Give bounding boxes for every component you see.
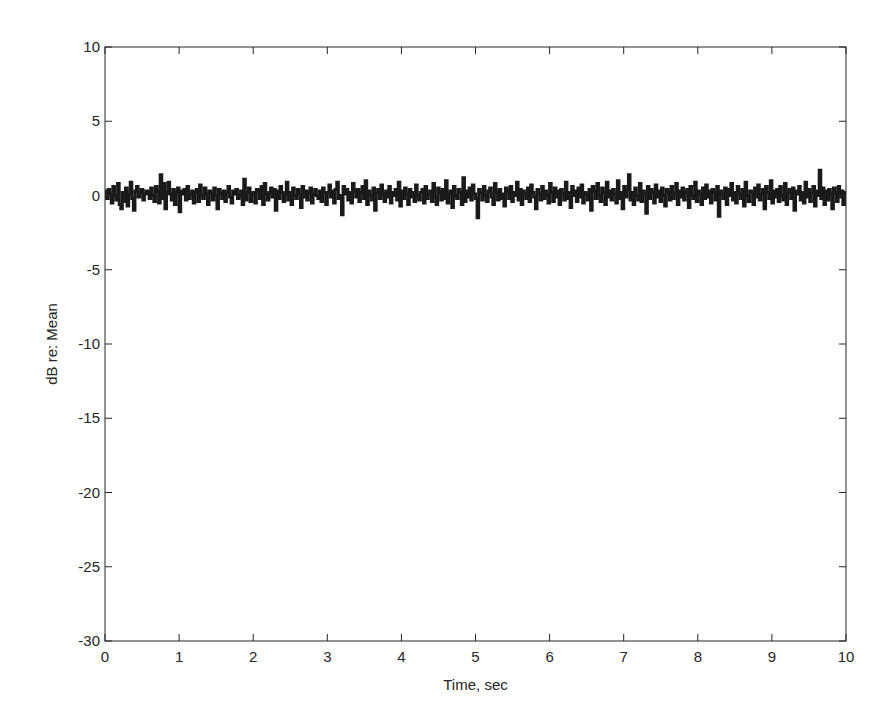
y-tick-label: -15 <box>78 409 100 426</box>
y-tick-labels: 1050-5-10-15-20-25-30 <box>78 38 100 649</box>
x-tick-label: 0 <box>101 648 109 665</box>
x-tick-label: 9 <box>768 648 776 665</box>
line-chart: 012345678910 1050-5-10-15-20-25-30 Time,… <box>0 0 896 722</box>
y-tick-label: -20 <box>78 484 100 501</box>
x-tick-label: 2 <box>249 648 257 665</box>
x-tick-label: 7 <box>620 648 628 665</box>
x-tick-label: 4 <box>397 648 405 665</box>
y-tick-label: 10 <box>83 38 100 55</box>
y-tick-label: 0 <box>92 187 100 204</box>
x-tick-label: 1 <box>175 648 183 665</box>
y-tick-label: 5 <box>92 112 100 129</box>
x-axis-label: Time, sec <box>443 676 508 693</box>
x-tick-label: 5 <box>471 648 479 665</box>
x-tick-label: 3 <box>323 648 331 665</box>
y-axis-label: dB re: Mean <box>43 303 60 385</box>
y-tick-label: -10 <box>78 335 100 352</box>
x-tick-label: 6 <box>545 648 553 665</box>
y-tick-label: -25 <box>78 558 100 575</box>
y-tick-label: -30 <box>78 632 100 649</box>
x-tick-label: 8 <box>694 648 702 665</box>
x-tick-labels: 012345678910 <box>101 648 855 665</box>
plot-background <box>105 47 846 641</box>
y-tick-label: -5 <box>87 261 100 278</box>
x-tick-label: 10 <box>838 648 855 665</box>
